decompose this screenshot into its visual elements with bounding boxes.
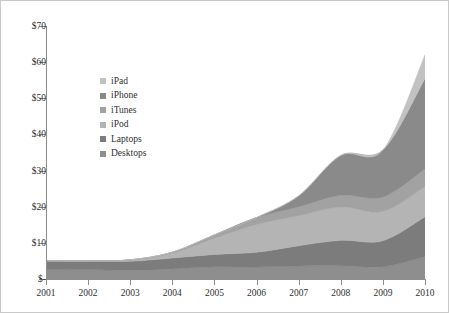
chart-legend: iPadiPhoneiTunesiPodLaptopsDesktops xyxy=(100,74,146,161)
legend-item-laptops[interactable]: Laptops xyxy=(100,132,146,147)
legend-item-label: iPod xyxy=(111,119,128,130)
x-axis-label: 2008 xyxy=(319,288,363,299)
x-axis-tick xyxy=(383,279,384,285)
legend-item-ipad[interactable]: iPad xyxy=(100,74,146,89)
legend-item-label: Desktops xyxy=(111,148,146,159)
legend-item-label: iPhone xyxy=(111,90,137,101)
x-axis-label: 2009 xyxy=(361,288,405,299)
legend-item-label: Laptops xyxy=(111,134,142,145)
y-axis-label-row: $40 xyxy=(1,129,46,139)
x-axis-label: 2002 xyxy=(66,288,110,299)
y-axis-label-row: $60 xyxy=(1,57,46,67)
x-axis-tick xyxy=(257,279,258,285)
y-axis-label: $60 xyxy=(12,57,46,67)
x-axis-tick xyxy=(341,279,342,285)
x-axis-label: 2003 xyxy=(108,288,152,299)
y-axis-label-row: $20 xyxy=(1,202,46,212)
legend-item-desktops[interactable]: Desktops xyxy=(100,147,146,162)
x-axis-tick xyxy=(172,279,173,285)
y-axis-label-row: $30 xyxy=(1,166,46,176)
y-axis-label: $50 xyxy=(12,93,46,103)
y-axis-label: $30 xyxy=(12,166,46,176)
x-axis-tick xyxy=(46,279,47,285)
x-axis-label: 2006 xyxy=(235,288,279,299)
x-axis-tick xyxy=(130,279,131,285)
legend-swatch-icon xyxy=(100,78,106,84)
legend-item-ipod[interactable]: iPod xyxy=(100,118,146,133)
y-axis-label: $- xyxy=(12,274,46,284)
legend-swatch-icon xyxy=(100,136,106,142)
x-axis-label: 2004 xyxy=(150,288,194,299)
y-axis-line xyxy=(46,26,47,280)
legend-swatch-icon xyxy=(100,122,106,128)
legend-swatch-icon xyxy=(100,93,106,99)
y-axis-label: $10 xyxy=(12,238,46,248)
x-axis-tick xyxy=(88,279,89,285)
y-axis-label: $70 xyxy=(12,21,46,31)
legend-swatch-icon xyxy=(100,151,106,157)
x-axis-tick xyxy=(425,279,426,285)
x-axis-label: 2010 xyxy=(403,288,447,299)
y-axis-label-row: $10 xyxy=(1,238,46,248)
x-axis-tick xyxy=(299,279,300,285)
y-axis-label-row: $50 xyxy=(1,93,46,103)
x-axis-label: 2007 xyxy=(277,288,321,299)
y-axis-label: $20 xyxy=(12,202,46,212)
legend-item-label: iPad xyxy=(111,76,128,87)
legend-item-iphone[interactable]: iPhone xyxy=(100,89,146,104)
x-axis-tick xyxy=(214,279,215,285)
stacked-area-chart: $70$60$50$40$30$20$10$- 2001200220032004… xyxy=(0,0,449,313)
legend-swatch-icon xyxy=(100,107,106,113)
x-axis-line xyxy=(46,279,426,280)
y-axis-label-row: $70 xyxy=(1,21,46,31)
x-axis-label: 2001 xyxy=(24,288,68,299)
x-axis-label: 2005 xyxy=(192,288,236,299)
legend-item-itunes[interactable]: iTunes xyxy=(100,103,146,118)
y-axis-label-row: $- xyxy=(1,274,46,284)
legend-item-label: iTunes xyxy=(111,105,137,116)
y-axis-label: $40 xyxy=(12,129,46,139)
